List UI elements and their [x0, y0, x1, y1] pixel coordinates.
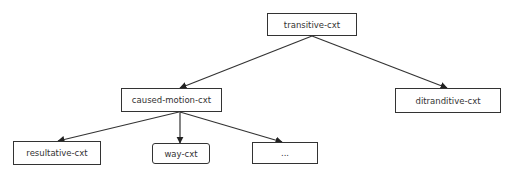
edge-caused-to-result	[58, 112, 179, 141]
node-label: transitive-cxt	[284, 20, 340, 30]
node-label: ...	[281, 148, 289, 158]
edge-transitive-to-caused	[180, 36, 312, 88]
node-transitive-cxt[interactable]: transitive-cxt	[267, 13, 357, 36]
node-label: caused-motion-cxt	[132, 95, 211, 105]
node-label: way-cxt	[164, 149, 197, 159]
node-ditranditive-cxt[interactable]: ditranditive-cxt	[395, 88, 501, 113]
node-caused-motion-cxt[interactable]: caused-motion-cxt	[121, 88, 222, 112]
edge-caused-to-more	[180, 112, 282, 142]
node-resultative-cxt[interactable]: resultative-cxt	[13, 141, 101, 165]
edge-transitive-to-ditran	[312, 36, 447, 88]
node-label: resultative-cxt	[26, 148, 87, 158]
node-label: ditranditive-cxt	[416, 96, 481, 106]
node-way-cxt[interactable]: way-cxt	[152, 143, 210, 164]
node-more-ellipsis[interactable]: ...	[252, 142, 318, 164]
